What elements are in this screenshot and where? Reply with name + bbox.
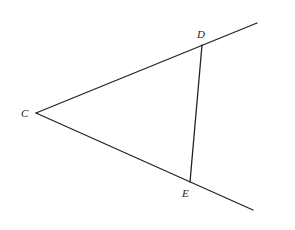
ray-ce: [36, 113, 253, 210]
ray-cd: [36, 23, 257, 113]
segment-de: [190, 45, 202, 182]
label-e: E: [181, 187, 189, 199]
label-d: D: [196, 28, 205, 40]
geometry-diagram: C D E: [0, 0, 295, 230]
label-c: C: [21, 107, 29, 119]
